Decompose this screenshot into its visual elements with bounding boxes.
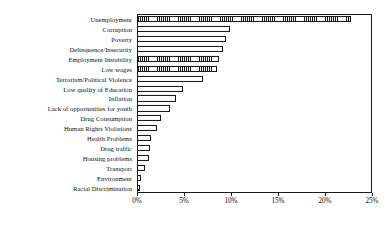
bar xyxy=(137,26,230,32)
bar-row: Terrorism/Political Violence xyxy=(0,74,392,84)
bar-row: Human Rights Violations xyxy=(0,123,392,133)
bar-row: Corruption xyxy=(0,24,392,34)
bar xyxy=(137,66,217,72)
bar xyxy=(137,175,141,181)
bar-container xyxy=(137,125,157,131)
category-label: Racial Discrimination xyxy=(73,184,132,191)
bar-container xyxy=(137,135,151,141)
bar xyxy=(137,76,203,82)
bar-row: Housing problems xyxy=(0,153,392,163)
bar-container xyxy=(137,185,140,191)
category-label: Poverty xyxy=(111,35,132,42)
bar-container xyxy=(137,145,150,151)
bar-container xyxy=(137,36,226,42)
x-tick-label: 10% xyxy=(224,197,237,205)
bar xyxy=(137,115,161,121)
bar-container xyxy=(137,66,217,72)
bar-container xyxy=(137,175,141,181)
bar xyxy=(137,185,140,191)
bar-row: Employment Instability xyxy=(0,54,392,64)
x-tick-label: 5% xyxy=(179,197,189,205)
bar-container xyxy=(137,56,219,62)
x-tick-label: 20% xyxy=(318,197,331,205)
category-label: Low quality of Education xyxy=(63,85,132,92)
bar-row: Health Problems xyxy=(0,133,392,143)
category-label: Delinquence/Insecurity xyxy=(69,45,132,52)
x-tick-label: 25% xyxy=(365,197,378,205)
bar-row: Environment xyxy=(0,173,392,183)
category-label: Health Problems xyxy=(87,135,132,142)
bar-container xyxy=(137,115,161,121)
bar-chart: UnemploymentCorruptionPovertyDelinquence… xyxy=(0,0,392,229)
category-label: Corruption xyxy=(103,25,132,32)
bar-row: Low wages xyxy=(0,64,392,74)
x-axis: 0%5%10%15%20%25% xyxy=(0,193,392,223)
bar xyxy=(137,56,219,62)
x-tick xyxy=(137,193,138,196)
bar xyxy=(137,46,223,52)
x-tick xyxy=(184,193,185,196)
category-label: Low wages xyxy=(101,65,132,72)
bar-row: Poverty xyxy=(0,34,392,44)
category-label: Terrorism/Political Violence xyxy=(56,75,132,82)
x-tick xyxy=(278,193,279,196)
bar-row: Transport xyxy=(0,163,392,173)
x-tick xyxy=(325,193,326,196)
bar xyxy=(137,105,170,111)
category-label: Employment Instability xyxy=(68,55,132,62)
bar-row: Inflation xyxy=(0,94,392,104)
bar xyxy=(137,155,149,161)
category-label: Drug Consumption xyxy=(80,115,132,122)
bar-container xyxy=(137,155,149,161)
category-label: Unemployment xyxy=(90,15,132,22)
bar xyxy=(137,95,176,101)
bar-row: Drug Consumption xyxy=(0,113,392,123)
bar-container xyxy=(137,105,170,111)
bar-row: Drug traffic xyxy=(0,143,392,153)
bar-row: Unemployment xyxy=(0,14,392,24)
category-label: Human Rights Violations xyxy=(64,125,132,132)
bar-container xyxy=(137,76,203,82)
bar-container xyxy=(137,26,230,32)
category-label: Transport xyxy=(106,165,132,172)
bar-container xyxy=(137,46,223,52)
bar xyxy=(137,16,351,22)
bar-row: Low quality of Education xyxy=(0,84,392,94)
bar xyxy=(137,36,226,42)
category-label: Drug traffic xyxy=(100,145,132,152)
category-label: Lack of opportunities for youth xyxy=(48,105,132,112)
x-tick-label: 0% xyxy=(132,197,142,205)
bar-row: Lack of opportunities for youth xyxy=(0,103,392,113)
bar xyxy=(137,85,183,91)
x-tick xyxy=(372,193,373,196)
bar-row: Delinquence/Insecurity xyxy=(0,44,392,54)
bar-container xyxy=(137,16,351,22)
bar xyxy=(137,165,145,171)
category-label: Inflation xyxy=(109,95,132,102)
category-label: Environment xyxy=(97,174,132,181)
x-tick xyxy=(231,193,232,196)
bar-container xyxy=(137,165,145,171)
bar xyxy=(137,145,150,151)
x-tick-label: 15% xyxy=(271,197,284,205)
bar-row: Racial Discrimination xyxy=(0,183,392,193)
bar xyxy=(137,125,157,131)
bar-container xyxy=(137,85,183,91)
bar-container xyxy=(137,95,176,101)
category-label: Housing problems xyxy=(83,155,132,162)
bar-rows: UnemploymentCorruptionPovertyDelinquence… xyxy=(0,14,392,193)
bar xyxy=(137,135,151,141)
